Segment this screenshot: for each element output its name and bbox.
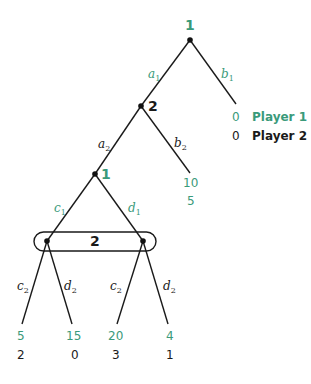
action-label-c1: c1 [54, 202, 66, 217]
node2-player-label: 2 [148, 99, 158, 113]
legend-player1: Player 1 [252, 111, 307, 123]
b2-payoff-player1: 10 [183, 177, 198, 189]
player2-node [138, 103, 144, 109]
leaf4-payoff-player2: 1 [166, 349, 174, 361]
b1-payoff-player1: 0 [232, 111, 240, 123]
leaf2-payoff-player1: 15 [66, 330, 81, 342]
info-set-player-label: 2 [90, 234, 100, 248]
info-set-left-node [44, 238, 50, 244]
b1-payoff-player2: 0 [232, 130, 240, 142]
info-set-right-node [140, 238, 146, 244]
action-label-c2-left: c2 [17, 280, 29, 295]
action-label-b1: b1 [221, 68, 234, 83]
game-tree-edges [0, 0, 311, 384]
action-label-d2-left: d2 [64, 280, 77, 295]
action-label-c2-right: c2 [110, 280, 122, 295]
root-node [187, 37, 193, 43]
action-label-d1: d1 [128, 202, 141, 217]
action-label-a2: a2 [98, 138, 110, 153]
leaf3-payoff-player1: 20 [108, 330, 123, 342]
leaf1-payoff-player2: 2 [17, 349, 25, 361]
node3-player-label: 1 [101, 167, 111, 181]
player1-second-node [92, 171, 98, 177]
action-label-b2: b2 [174, 137, 187, 152]
leaf4-payoff-player1: 4 [166, 330, 174, 342]
b2-payoff-player2: 5 [187, 195, 195, 207]
root-player-label: 1 [185, 18, 195, 32]
leaf2-payoff-player2: 0 [71, 349, 79, 361]
leaf1-payoff-player1: 5 [17, 330, 25, 342]
legend-player2: Player 2 [252, 130, 307, 142]
action-label-d2-right: d2 [163, 280, 176, 295]
leaf3-payoff-player2: 3 [112, 349, 120, 361]
action-label-a1: a1 [148, 68, 160, 83]
